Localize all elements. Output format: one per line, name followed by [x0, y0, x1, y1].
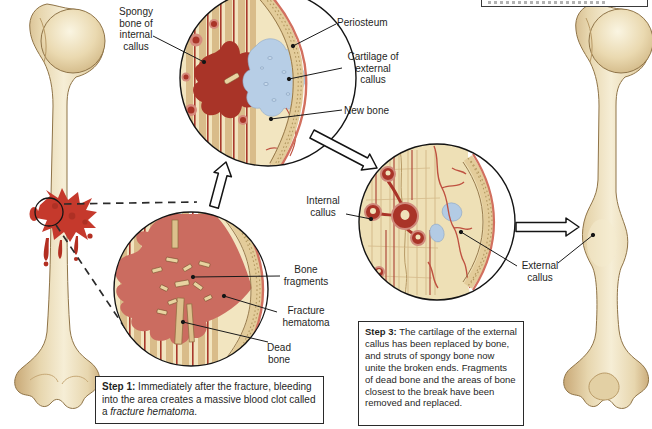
healed-callus-bump [587, 219, 617, 267]
arrow-diagonal-icon [310, 130, 377, 170]
healed-bone [564, 4, 652, 408]
arrow-right-icon [516, 218, 579, 236]
cutoff-text-sliver [488, 1, 606, 4]
step1-caption-box: Step 1: Immediately after the fracture, … [95, 376, 324, 424]
arrow-up-icon [210, 162, 232, 208]
label-periosteum: Periosteum [337, 17, 388, 29]
label-internal-callus: Internal callus [300, 195, 346, 218]
step1-text: Step 1: Immediately after the fracture, … [102, 381, 317, 419]
inset-fracture-hematoma [108, 206, 278, 376]
label-spongy-bone-internal-callus: Spongy bone of internal callus [108, 6, 164, 52]
label-fracture-hematoma: Fracture hematoma [278, 305, 334, 328]
fractured-bone [15, 4, 105, 408]
inset-bony-callus [350, 134, 520, 310]
step3-caption-box: Step 3: The cartilage of the external ca… [358, 321, 524, 426]
label-cartilage-external-callus: Cartilage of external callus [341, 51, 405, 86]
step3-text: Step 3: The cartilage of the external ca… [365, 326, 517, 409]
cutoff-caption-box [481, 0, 648, 7]
figure-canvas: Spongy bone of internal callus Periosteu… [0, 0, 652, 429]
label-dead-bone: Dead bone [256, 342, 302, 365]
label-bone-fragments: Bone fragments [281, 264, 331, 287]
label-external-callus: External callus [514, 260, 566, 283]
label-new-bone: New bone [344, 105, 389, 117]
